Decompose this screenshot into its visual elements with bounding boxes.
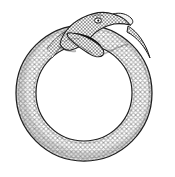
snake-pupil xyxy=(97,20,99,22)
ouroboros-image-canvas: Ouroboros Ouroboros: a scaled serpent cu… xyxy=(0,0,175,177)
ouroboros-illustration xyxy=(0,0,175,177)
